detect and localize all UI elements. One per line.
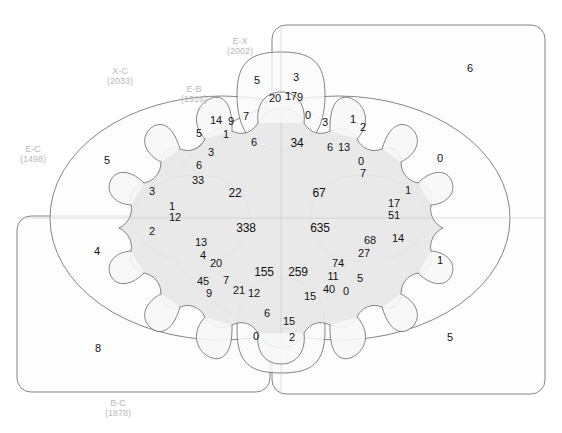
set-label-ec-name: E-C (20, 144, 46, 154)
region-count: 13 (338, 142, 350, 153)
region-count: 635 (310, 222, 329, 234)
region-count: 1 (350, 114, 356, 125)
region-count: 20 (210, 258, 222, 269)
region-count: 0 (358, 156, 364, 167)
region-count: 155 (254, 266, 273, 278)
set-label-ex-name: E-X (227, 36, 253, 46)
region-count: 3 (208, 147, 214, 158)
region-count: 7 (243, 111, 249, 122)
region-count: 7 (223, 275, 229, 286)
set-label-xc-name: X-C (107, 66, 133, 76)
region-count: 5 (357, 273, 363, 284)
region-count: 22 (229, 187, 242, 199)
set-label-ex-size: (2002) (227, 46, 253, 56)
region-count: 3 (149, 186, 155, 197)
region-count: 15 (283, 316, 295, 327)
region-count: 5 (447, 332, 453, 343)
region-count: 1 (437, 255, 443, 266)
region-count: 33 (192, 175, 204, 186)
region-count: 21 (233, 285, 245, 296)
set-label-ec-size: (1498) (20, 154, 46, 164)
region-count: 12 (248, 288, 260, 299)
region-count: 8 (95, 343, 101, 354)
set-label-bc-size: (1878) (105, 408, 131, 418)
region-count: 12 (169, 212, 181, 223)
region-count: 338 (236, 222, 255, 234)
region-count: 6 (251, 137, 257, 148)
region-count: 51 (388, 210, 400, 221)
region-count: 40 (323, 284, 335, 295)
region-count: 67 (313, 187, 326, 199)
region-count: 68 (364, 235, 376, 246)
region-count: 0 (305, 110, 311, 121)
region-count: 5 (196, 128, 202, 139)
set-label-eb-size: (1916) (181, 94, 207, 104)
venn-diagram: E-X (2002) X-C (2033) E-B (1916) E-C (14… (0, 0, 562, 433)
set-label-bc: B-C (1878) (105, 398, 131, 419)
region-count: 74 (332, 258, 344, 269)
region-count: 1 (223, 129, 229, 140)
set-label-xc-size: (2033) (107, 76, 133, 86)
set-label-eb-name: E-B (181, 84, 207, 94)
region-count: 11 (327, 271, 338, 282)
region-count: 17 (388, 198, 400, 209)
region-count: 14 (210, 115, 222, 126)
region-count: 2 (149, 226, 155, 237)
region-count: 15 (304, 291, 316, 302)
region-count: 4 (200, 250, 206, 261)
region-count: 259 (288, 266, 307, 278)
set-label-ex: E-X (2002) (227, 36, 253, 57)
region-count: 6 (327, 142, 333, 153)
set-label-xc: X-C (2033) (107, 66, 133, 87)
region-count: 2 (289, 332, 295, 343)
region-count: 6 (264, 308, 270, 319)
region-count: 6 (467, 63, 473, 74)
region-count: 0 (437, 153, 443, 164)
region-count: 5 (104, 155, 110, 166)
region-count: 34 (291, 137, 304, 149)
region-count: 3 (322, 117, 328, 128)
region-count: 5 (254, 75, 260, 86)
venn-shapes (0, 0, 562, 433)
region-count: 13 (195, 237, 207, 248)
region-count: 6 (196, 160, 202, 171)
region-count: 0 (253, 331, 259, 342)
region-count: 9 (228, 116, 234, 127)
region-count: 9 (297, 92, 303, 103)
set-label-ec: E-C (1498) (20, 144, 46, 165)
region-count: 7 (360, 168, 366, 179)
region-count: 27 (358, 248, 370, 259)
region-count: 3 (293, 72, 299, 83)
region-count: 4 (94, 246, 100, 257)
region-count: 45 (197, 276, 209, 287)
region-count: 14 (392, 233, 404, 244)
region-count: 2 (360, 122, 366, 133)
set-label-eb: E-B (1916) (181, 84, 207, 105)
region-count: 1 (405, 185, 411, 196)
region-count: 9 (206, 288, 212, 299)
region-count: 0 (343, 286, 349, 297)
region-count: 17 (285, 91, 297, 102)
region-count: 20 (269, 93, 281, 104)
set-label-bc-name: B-C (105, 398, 131, 408)
